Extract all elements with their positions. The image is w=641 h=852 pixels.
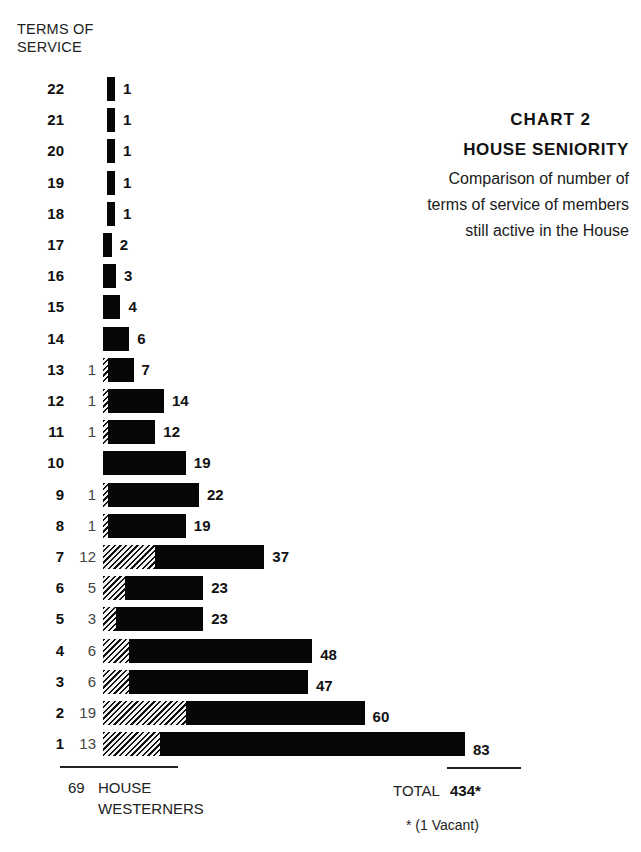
term-label: 22 bbox=[20, 77, 64, 101]
westerners-bar-segment bbox=[103, 358, 108, 382]
bar-row: 11112 bbox=[0, 420, 641, 444]
total-value-label: 1 bbox=[115, 202, 131, 226]
westerners-bar-segment bbox=[103, 607, 116, 631]
term-label: 21 bbox=[20, 108, 64, 132]
total-value-label: 12 bbox=[155, 420, 180, 444]
total-bar bbox=[103, 701, 365, 725]
term-label: 3 bbox=[20, 670, 64, 694]
westerners-value: 6 bbox=[66, 639, 96, 663]
westerners-value: 19 bbox=[66, 701, 96, 725]
total-bar bbox=[107, 202, 115, 226]
term-label: 9 bbox=[20, 483, 64, 507]
bar-row: 181 bbox=[0, 202, 641, 226]
westerners-value: 1 bbox=[66, 514, 96, 538]
bar-row: 1019 bbox=[0, 451, 641, 475]
total-bar bbox=[103, 233, 112, 257]
westerners-value: 1 bbox=[66, 389, 96, 413]
term-label: 7 bbox=[20, 545, 64, 569]
total-bar bbox=[107, 139, 115, 163]
bar-row: 154 bbox=[0, 295, 641, 319]
total-bar bbox=[107, 171, 115, 195]
westerners-bar-segment bbox=[103, 514, 108, 538]
total-value-label: 83 bbox=[465, 738, 490, 762]
bar-row: 71237 bbox=[0, 545, 641, 569]
term-label: 13 bbox=[20, 358, 64, 382]
total-value-label: 48 bbox=[312, 643, 337, 667]
total-value-label: 1 bbox=[115, 108, 131, 132]
term-label: 8 bbox=[20, 514, 64, 538]
bar-row: 4648 bbox=[0, 639, 641, 663]
bar-row: 146 bbox=[0, 327, 641, 351]
total-value-label: 1 bbox=[115, 171, 131, 195]
bar-row: 6523 bbox=[0, 576, 641, 600]
bar-row: 201 bbox=[0, 139, 641, 163]
bar-row: 3647 bbox=[0, 670, 641, 694]
bar-row: 1317 bbox=[0, 358, 641, 382]
westerners-bar-segment bbox=[103, 576, 125, 600]
total-bar bbox=[103, 545, 264, 569]
total-bar bbox=[103, 483, 199, 507]
bar-row: 21960 bbox=[0, 701, 641, 725]
westerners-value: 6 bbox=[66, 670, 96, 694]
westerners-value: 1 bbox=[66, 420, 96, 444]
total-value: 434* bbox=[450, 782, 481, 799]
total-rule bbox=[447, 767, 521, 769]
term-label: 6 bbox=[20, 576, 64, 600]
term-label: 10 bbox=[20, 451, 64, 475]
bar-row: 8119 bbox=[0, 514, 641, 538]
total-value-label: 6 bbox=[129, 327, 145, 351]
bar-row: 211 bbox=[0, 108, 641, 132]
westerners-rule bbox=[60, 766, 178, 768]
westerners-value: 1 bbox=[66, 483, 96, 507]
bar-row: 11383 bbox=[0, 732, 641, 756]
total-bar bbox=[103, 358, 134, 382]
term-label: 2 bbox=[20, 701, 64, 725]
term-label: 14 bbox=[20, 327, 64, 351]
westerners-value: 3 bbox=[66, 607, 96, 631]
westerners-count: 69 bbox=[68, 777, 98, 798]
westerners-bar-segment bbox=[103, 545, 155, 569]
term-label: 19 bbox=[20, 171, 64, 195]
total-bar bbox=[103, 420, 155, 444]
term-label: 20 bbox=[20, 139, 64, 163]
total-value-label: 37 bbox=[264, 545, 289, 569]
total-bar bbox=[103, 607, 203, 631]
total-bar bbox=[103, 327, 129, 351]
term-label: 16 bbox=[20, 264, 64, 288]
term-label: 15 bbox=[20, 295, 64, 319]
total-bar bbox=[103, 732, 465, 756]
total-value-label: 3 bbox=[116, 264, 132, 288]
bar-row: 172 bbox=[0, 233, 641, 257]
westerners-bar-segment bbox=[103, 701, 186, 725]
total-bar bbox=[103, 670, 308, 694]
westerners-label-1: HOUSE bbox=[98, 777, 204, 798]
westerners-label-2: WESTERNERS bbox=[98, 798, 204, 819]
total-value-label: 22 bbox=[199, 483, 224, 507]
total-value-label: 1 bbox=[115, 139, 131, 163]
term-label: 12 bbox=[20, 389, 64, 413]
bar-row: 163 bbox=[0, 264, 641, 288]
westerners-bar-segment bbox=[103, 420, 108, 444]
bar-row: 191 bbox=[0, 171, 641, 195]
total-value-label: 4 bbox=[120, 295, 136, 319]
westerners-total: 69HOUSEWESTERNERS bbox=[68, 777, 204, 819]
grand-total: TOTAL434* bbox=[393, 782, 481, 799]
total-value-label: 2 bbox=[112, 233, 128, 257]
bar-row: 12114 bbox=[0, 389, 641, 413]
total-bar bbox=[103, 639, 312, 663]
bar-row: 9122 bbox=[0, 483, 641, 507]
westerners-bar-segment bbox=[103, 670, 129, 694]
total-value-label: 7 bbox=[134, 358, 150, 382]
total-bar bbox=[107, 77, 115, 101]
term-label: 11 bbox=[20, 420, 64, 444]
bar-row: 5323 bbox=[0, 607, 641, 631]
total-value-label: 23 bbox=[203, 607, 228, 631]
axis-title-line-1: TERMS OF bbox=[17, 20, 94, 38]
westerners-value: 13 bbox=[66, 732, 96, 756]
total-value-label: 47 bbox=[308, 674, 333, 698]
total-value-label: 14 bbox=[164, 389, 189, 413]
axis-title-line-2: SERVICE bbox=[17, 38, 94, 56]
total-bar bbox=[103, 389, 164, 413]
total-value-label: 19 bbox=[186, 514, 211, 538]
total-bar bbox=[107, 108, 115, 132]
